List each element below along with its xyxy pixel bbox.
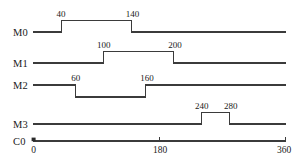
signal-row-m1: M1 100 200 [13, 40, 286, 69]
waveform-m0 [33, 21, 286, 33]
timing-diagram-canvas: M0 40 140 M1 100 200 M2 60 160 M3 240 28… [0, 0, 298, 168]
edge-label-m1-fall: 200 [168, 40, 182, 50]
axis-tick-label-360: 360 [277, 145, 292, 155]
waveform-m2 [33, 85, 286, 97]
signal-label-m1: M1 [13, 58, 28, 69]
signal-label-c0: C0 [13, 136, 26, 147]
edge-label-m0-fall: 140 [126, 9, 140, 19]
signal-row-m0: M0 40 140 [13, 9, 286, 38]
axis-tick-label-0: 0 [31, 145, 36, 155]
signal-label-m2: M2 [13, 80, 28, 91]
edge-label-m3-rise: 240 [195, 101, 209, 111]
signal-label-m3: M3 [13, 119, 28, 130]
edge-label-m0-rise: 40 [57, 9, 67, 19]
waveform-m1 [33, 52, 286, 64]
origin-marker-icon [32, 138, 36, 142]
edge-label-m2-fall: 60 [71, 73, 81, 83]
signal-row-m2: M2 60 160 [13, 73, 286, 97]
signal-row-m3: M3 240 280 [13, 101, 286, 130]
edge-label-m2-rise: 160 [140, 73, 154, 83]
axis-tick-label-180: 180 [153, 145, 168, 155]
edge-label-m3-fall: 280 [224, 101, 238, 111]
waveform-m3 [33, 113, 286, 125]
time-axis-c0: C0 0 180 360 [13, 136, 291, 156]
timing-diagram: M0 40 140 M1 100 200 M2 60 160 M3 240 28… [0, 0, 298, 168]
signal-label-m0: M0 [13, 27, 28, 38]
edge-label-m1-rise: 100 [97, 40, 111, 50]
